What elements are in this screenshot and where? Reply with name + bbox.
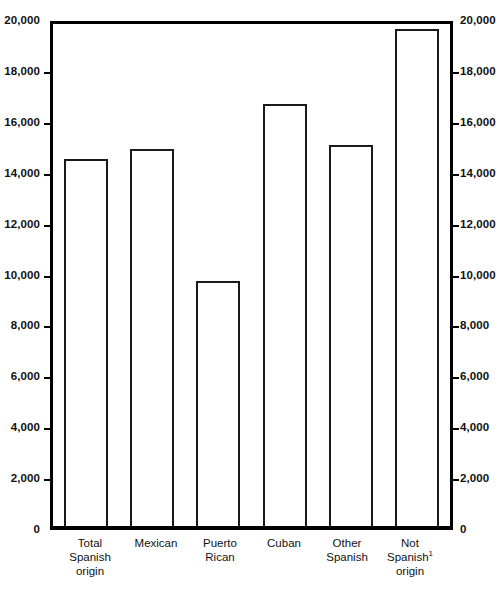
y-tick-label-right-4000: 4,000 [460,422,489,434]
y-tick-mark-left-16000 [44,123,51,125]
x-label-line2-wrap: Spanish1 [374,550,446,564]
x-label-line1: Cuban [248,536,320,550]
y-tick-mark-right-12000 [452,225,459,227]
y-tick-label-left-10000: 10,000 [4,270,40,282]
x-label-line2: Spanish [54,550,126,564]
y-tick-label-right-0: 0 [460,524,467,536]
x-label-puerto-rican: Puerto Rican [184,536,256,564]
y-tick-label-left-0: 0 [34,524,41,536]
y-tick-label-left-6000: 6,000 [11,372,40,384]
bar-mexican[interactable] [130,149,174,526]
y-tick-mark-right-4000 [452,428,459,430]
y-tick-mark-right-10000 [452,276,459,278]
y-tick-label-left-12000: 12,000 [4,219,40,231]
y-tick-mark-left-14000 [44,174,51,176]
x-label-line2: Rican [184,550,256,564]
x-label-line3: origin [54,564,126,578]
y-tick-label-left-8000: 8,000 [11,321,40,333]
plot-area [50,21,453,530]
y-axis-left-labels: 0 2,000 4,000 6,000 8,000 10,000 12,000 … [0,21,40,530]
y-tick-mark-left-4000 [44,428,51,430]
y-tick-mark-right-16000 [452,123,459,125]
x-label-line1: Other [311,536,383,550]
y-tick-label-right-6000: 6,000 [460,372,489,384]
x-label-cuban: Cuban [248,536,320,550]
y-tick-mark-left-2000 [44,479,51,481]
y-tick-label-right-10000: 10,000 [460,270,496,282]
y-tick-mark-left-8000 [44,326,51,328]
x-label-line2: Spanish [311,550,383,564]
y-tick-label-right-14000: 14,000 [460,168,496,180]
y-tick-mark-right-18000 [452,72,459,74]
x-label-line1: Mexican [120,536,192,550]
bar-chart: 0 2,000 4,000 6,000 8,000 10,000 12,000 … [0,0,498,596]
y-tick-label-right-18000: 18,000 [460,66,496,78]
x-label-other-spanish: Other Spanish [311,536,383,564]
y-tick-mark-right-6000 [452,377,459,379]
y-tick-mark-left-18000 [44,72,51,74]
x-label-line3: origin [374,564,446,578]
x-label-line2: Spanish [387,551,429,563]
footnote-marker: 1 [429,549,433,558]
y-tick-label-right-12000: 12,000 [460,219,496,231]
bar-cuban[interactable] [263,104,307,527]
x-label-line1: Not [374,536,446,550]
y-tick-label-left-2000: 2,000 [11,473,40,485]
x-label-line1: Total [54,536,126,550]
x-axis-labels: Total Spanish origin Mexican Puerto Rica… [0,536,498,596]
bar-total-spanish-origin[interactable] [64,159,108,526]
y-axis-right-labels: 0 2,000 4,000 6,000 8,000 10,000 12,000 … [460,21,498,530]
y-tick-label-right-16000: 16,000 [460,117,496,129]
y-tick-mark-right-8000 [452,326,459,328]
y-tick-label-right-20000: 20,000 [460,15,496,27]
x-label-mexican: Mexican [120,536,192,550]
y-tick-label-right-2000: 2,000 [460,473,489,485]
y-tick-mark-right-2000 [452,479,459,481]
y-tick-label-left-4000: 4,000 [11,422,40,434]
bar-puerto-rican[interactable] [196,281,240,526]
y-tick-label-right-8000: 8,000 [460,321,489,333]
y-tick-label-left-20000: 20,000 [4,15,40,27]
y-tick-label-left-18000: 18,000 [4,66,40,78]
y-tick-label-left-14000: 14,000 [4,168,40,180]
x-label-line1: Puerto [184,536,256,550]
bar-not-spanish-origin[interactable] [395,29,439,526]
y-tick-label-left-16000: 16,000 [4,117,40,129]
y-tick-mark-right-14000 [452,174,459,176]
y-tick-mark-left-6000 [44,377,51,379]
y-tick-mark-left-10000 [44,276,51,278]
x-label-not-spanish-origin: Not Spanish1 origin [374,536,446,578]
bar-other-spanish[interactable] [329,145,373,526]
x-label-total-spanish-origin: Total Spanish origin [54,536,126,578]
y-tick-mark-left-12000 [44,225,51,227]
